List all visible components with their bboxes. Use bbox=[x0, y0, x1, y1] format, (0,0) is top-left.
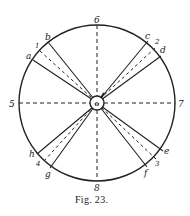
sector-upper-right bbox=[100, 41, 161, 100]
label-right: 7 bbox=[178, 99, 184, 109]
label-h: h bbox=[29, 149, 35, 159]
sector-lower-left bbox=[37, 107, 94, 168]
sector-lower-right bbox=[100, 106, 163, 167]
sector-upper-left bbox=[33, 42, 94, 100]
figure-23-diagram: o 6 8 5 7 a 1 b c 2 d h 4 g e 3 f Fig. 2… bbox=[0, 0, 190, 216]
label-g: g bbox=[45, 169, 51, 179]
label-f: f bbox=[143, 168, 149, 178]
label-a: a bbox=[26, 51, 31, 61]
label-4: 4 bbox=[35, 160, 40, 168]
label-b: b bbox=[45, 32, 51, 42]
label-bottom: 8 bbox=[94, 183, 100, 193]
label-3: 3 bbox=[155, 160, 160, 168]
figure-caption: Fig. 23. bbox=[75, 194, 108, 205]
label-d: d bbox=[160, 45, 166, 55]
label-c: c bbox=[145, 31, 150, 41]
label-e: e bbox=[164, 146, 169, 156]
label-1: 1 bbox=[35, 42, 39, 50]
label-left: 5 bbox=[9, 99, 15, 109]
label-top: 6 bbox=[94, 15, 100, 25]
center-label: o bbox=[95, 99, 100, 108]
